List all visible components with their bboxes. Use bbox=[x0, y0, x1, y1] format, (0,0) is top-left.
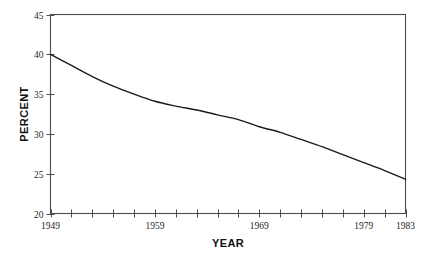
y-axis-tick-label: 20 bbox=[34, 210, 44, 220]
y-axis-tick-label: 45 bbox=[34, 11, 44, 21]
line-chart: 202530354045 19491959196919791983 PERCEN… bbox=[0, 0, 433, 260]
y-axis-tick-label: 40 bbox=[34, 50, 44, 60]
y-axis-tick-label: 25 bbox=[34, 170, 44, 180]
x-axis-title: YEAR bbox=[212, 237, 244, 249]
x-axis-tick-label: 1983 bbox=[396, 221, 415, 231]
x-axis-tick-label: 1969 bbox=[250, 221, 269, 231]
chart-canvas: 202530354045 19491959196919791983 PERCEN… bbox=[0, 0, 433, 260]
x-axis-tick-label: 1949 bbox=[41, 221, 60, 231]
y-axis-tick-label: 35 bbox=[34, 90, 44, 100]
y-axis-tick-labels: 202530354045 bbox=[34, 11, 44, 220]
data-series-line bbox=[51, 54, 406, 179]
x-axis-tick-label: 1959 bbox=[145, 221, 164, 231]
y-axis-title: PERCENT bbox=[18, 86, 30, 141]
x-axis-tick-label: 1979 bbox=[354, 221, 373, 231]
y-axis-tick-label: 30 bbox=[34, 130, 44, 140]
x-axis-tick-labels: 19491959196919791983 bbox=[41, 221, 415, 231]
plot-frame bbox=[51, 15, 406, 214]
